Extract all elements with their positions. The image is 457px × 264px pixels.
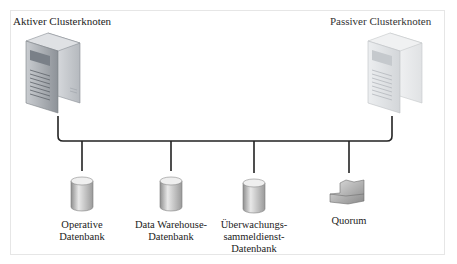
cluster-bus [58,116,392,173]
resource-label-quorum: Quorum [319,215,379,227]
passive-node-title: Passiver Clusterknoten [330,15,431,27]
passive-server-icon [368,33,422,113]
database-icon-data-warehouse [160,177,182,211]
resource-label-operative: Operative Datenbank [52,219,112,243]
database-icon-operative [71,177,93,211]
resource-label-monitoring: Überwachungs- sammeldienst- Datenbank [219,219,289,255]
database-icon-monitoring [243,179,265,213]
active-server-icon [26,33,80,113]
quorum-disk-icon [330,180,364,204]
resource-label-data-warehouse: Data Warehouse- Datenbank [131,219,211,243]
active-node-title: Aktiver Clusterknoten [13,15,111,27]
